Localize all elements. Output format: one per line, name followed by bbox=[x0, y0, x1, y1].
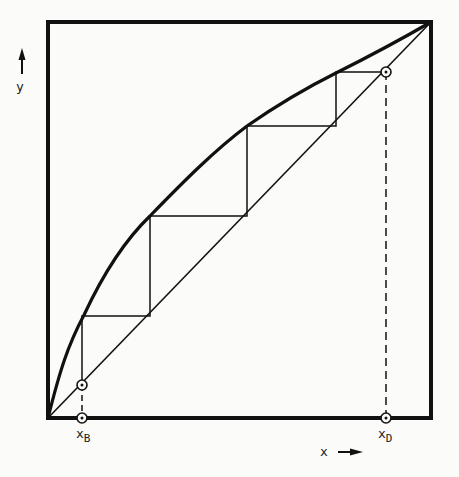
x-arrow-icon bbox=[338, 449, 363, 456]
xb-diagonal-marker bbox=[77, 380, 87, 390]
mccabe-thiele-diagram bbox=[0, 0, 459, 477]
xd-diagonal-marker bbox=[381, 67, 391, 77]
stage-steps bbox=[82, 72, 386, 385]
xd-label-main: x bbox=[378, 426, 386, 441]
y-axis-label: y bbox=[16, 80, 24, 93]
xd-axis-marker bbox=[381, 413, 391, 423]
xb-axis-marker bbox=[77, 413, 87, 423]
xb-label-main: x bbox=[76, 426, 84, 441]
y-arrow-icon bbox=[19, 48, 26, 74]
xd-label-sub: D bbox=[386, 432, 393, 445]
xb-label: xB bbox=[76, 427, 90, 440]
diagonal-line bbox=[48, 22, 431, 418]
xb-label-sub: B bbox=[84, 432, 91, 445]
xd-label: xD bbox=[378, 427, 392, 440]
x-axis-label: x bbox=[320, 445, 328, 458]
